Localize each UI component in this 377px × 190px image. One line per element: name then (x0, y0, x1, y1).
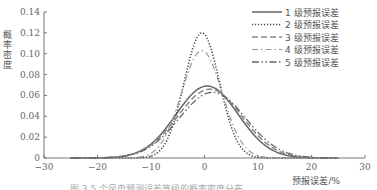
probability-density-chart: 00.020.040.060.080.100.120.14−30−20−1001… (0, 0, 377, 190)
y-tick-label: 0.10 (20, 49, 40, 59)
curve-level-5 (71, 92, 339, 158)
y-axis-label: 概率密度 (3, 29, 12, 70)
curve-level-3 (71, 89, 339, 158)
y-tick-label: 0.08 (20, 70, 40, 80)
y-tick-label: 0.14 (20, 7, 40, 17)
x-tick-label: −10 (142, 162, 161, 172)
legend-label-level-4: 4 级预报误差 (285, 44, 339, 55)
legend: 1 级预报误差2 级预报误差3 级预报误差4 级预报误差5 级预报误差 (252, 7, 339, 68)
curve-level-1 (71, 86, 339, 158)
y-tick-label: 0.04 (20, 111, 40, 121)
y-tick-label: 0.06 (20, 90, 40, 100)
y-tick-label: 0.02 (20, 132, 40, 142)
x-tick-label: −30 (35, 162, 54, 172)
x-tick-label: −20 (88, 162, 107, 172)
x-tick-label: 0 (202, 162, 208, 172)
x-tick-label: 10 (252, 162, 264, 172)
x-tick-label: 30 (359, 162, 371, 172)
x-tick-label: 20 (306, 162, 318, 172)
legend-label-level-2: 2 级预报误差 (285, 19, 339, 30)
y-tick-label: 0.12 (20, 28, 40, 38)
legend-label-level-3: 3 级预报误差 (285, 32, 339, 43)
legend-label-level-1: 1 级预报误差 (285, 7, 339, 18)
x-axis-label: 预报误差/% (292, 175, 340, 186)
figure-caption: 图 3 5 个风电预测误差等级的概率密度分布 (70, 182, 270, 190)
legend-label-level-5: 5 级预报误差 (285, 57, 339, 68)
